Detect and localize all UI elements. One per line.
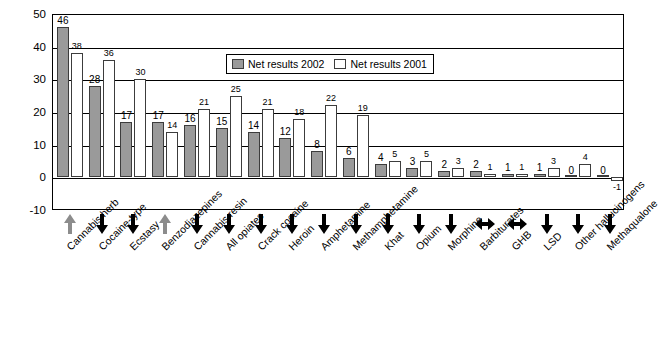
category-label: LSD [541,230,564,253]
category-label: Heroin [286,222,316,252]
category-label: Opium [413,222,443,252]
category-label: GHB [509,228,534,253]
category-label: Khat [382,229,406,253]
